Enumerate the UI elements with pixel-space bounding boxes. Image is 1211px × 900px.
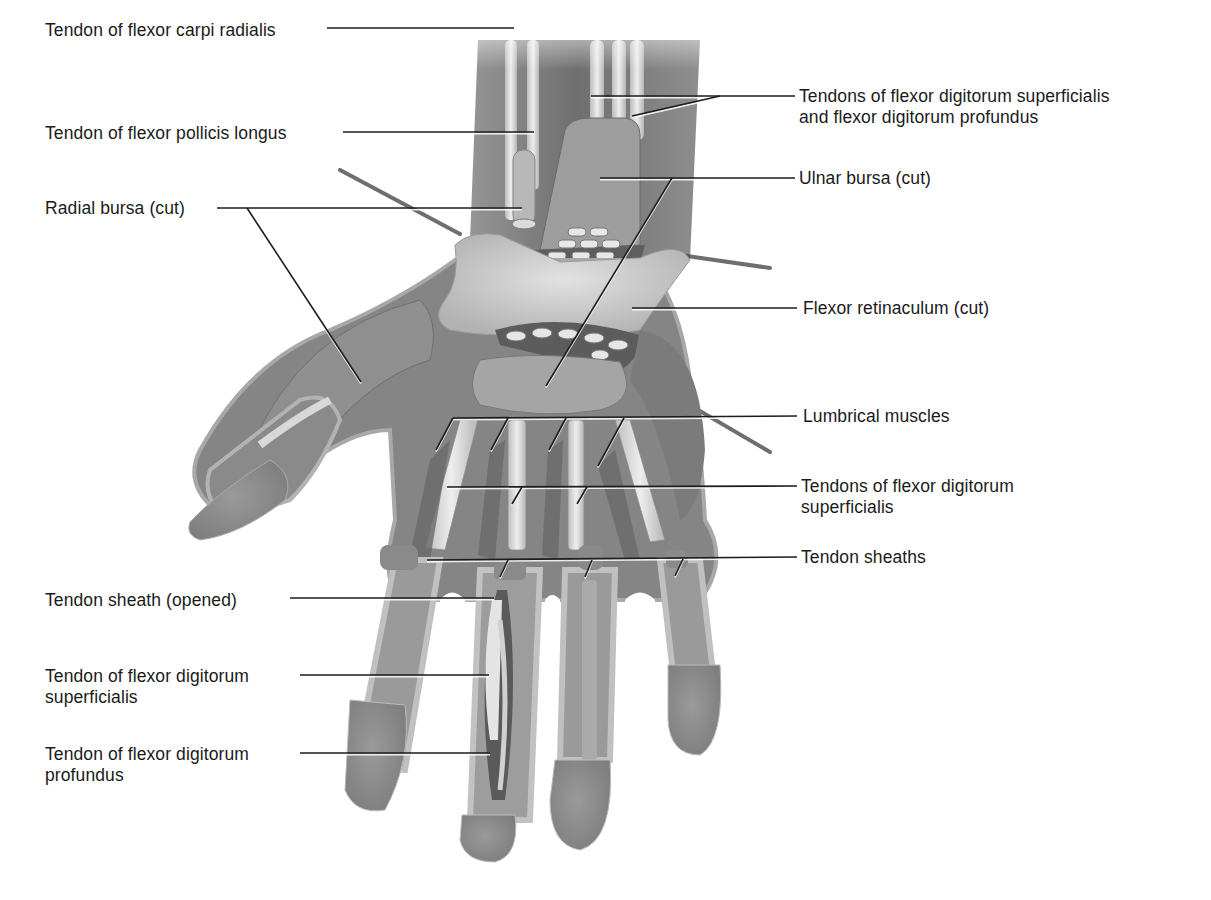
label-retinaculum: Flexor retinaculum (cut) [803,298,989,319]
label-fpl: Tendon of flexor pollicis longus [45,123,287,144]
label-line: profundus [45,765,249,786]
anatomy-figure: Tendon of flexor carpi radialisTendon of… [0,0,1211,900]
label-line: Tendon of flexor carpi radialis [45,20,276,41]
fingers [345,545,721,862]
leader-line-fds-tendons [447,486,797,487]
label-line: Ulnar bursa (cut) [799,168,931,189]
label-line: superficialis [45,687,249,708]
label-sheath-opened: Tendon sheath (opened) [45,590,237,611]
label-line: superficialis [801,497,1014,518]
label-line: Tendons of flexor digitorum superficiali… [799,86,1110,107]
label-line: Tendon of flexor digitorum [45,744,249,765]
label-line: Tendons of flexor digitorum [801,476,1014,497]
label-line: Tendon of flexor pollicis longus [45,123,287,144]
label-line: Tendon sheath (opened) [45,590,237,611]
label-line: Flexor retinaculum (cut) [803,298,989,319]
label-line: Radial bursa (cut) [45,198,185,219]
label-ulnar-bursa: Ulnar bursa (cut) [799,168,931,189]
label-sheaths: Tendon sheaths [801,547,926,568]
label-fdp-single: Tendon of flexor digitorumprofundus [45,744,249,786]
label-fds-fdp: Tendons of flexor digitorum superficiali… [799,86,1110,128]
label-lumbricals: Lumbrical muscles [803,406,950,427]
label-radial-bursa: Radial bursa (cut) [45,198,185,219]
label-fds-single: Tendon of flexor digitorumsuperficialis [45,666,249,708]
label-line: Tendon sheaths [801,547,926,568]
label-line: Tendon of flexor digitorum [45,666,249,687]
label-line: Lumbrical muscles [803,406,950,427]
label-line: and flexor digitorum profundus [799,107,1110,128]
label-fds-tendons: Tendons of flexor digitorumsuperficialis [801,476,1014,518]
label-fcr: Tendon of flexor carpi radialis [45,20,276,41]
